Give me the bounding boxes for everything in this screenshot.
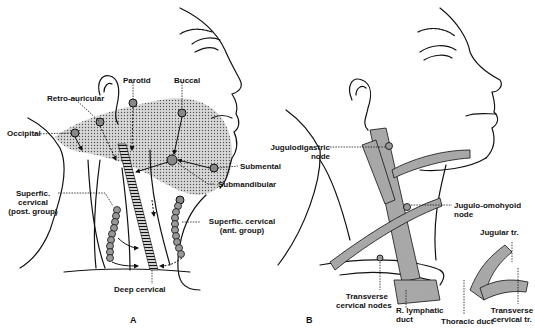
label-line: Superfic. cervical [202,217,282,226]
label-jugulo-omohyoid-node: Jugulo-omohyoid node [454,201,521,219]
label-superficial-cervical-ant: Superfic. cervical (ant. group) [202,217,282,235]
label-line: Jugulodigastric [268,143,330,152]
superficial-cervical-ant-chain [172,203,185,258]
label-line: (ant. group) [202,226,282,235]
label-transverse-cervical-nodes: Transverse cervical nodes [336,292,388,310]
label-transverse-cervical-trunk: Transverse cervical tr. [488,306,535,324]
label-parotid: Parotid [123,76,151,85]
label-line: Jugulo-omohyoid [454,201,521,210]
label-line: duct [396,315,444,324]
label-r-lymphatic-duct: R. lymphatic duct [396,306,444,324]
label-retro-auricular: Retro-auricular [47,94,104,103]
label-superficial-cervical-post: Superfic. cervical (post. group) [8,189,58,216]
label-line: cervical nodes [336,301,388,310]
label-deep-cervical: Deep cervical [114,285,166,294]
label-line: node [454,210,521,219]
label-line: cervical [8,198,58,207]
label-thoracic-duct: Thoracic duct [441,317,493,326]
label-submandibular: Submandibular [218,180,276,189]
panel-letter-b: B [306,315,313,325]
label-line: node [268,152,330,161]
label-line: cervical tr. [488,315,535,324]
panel-letter-a: A [130,315,137,325]
label-submental: Submental [240,162,281,171]
label-buccal: Buccal [174,76,200,85]
label-line: R. lymphatic [396,306,444,315]
label-line: Superfic. [8,189,58,198]
label-line: (post. group) [8,207,58,216]
label-occipital: Occipital [7,129,41,138]
label-jugulodigastric-node: Jugulodigastric node [268,143,330,161]
panel-a-drawing [20,8,241,290]
label-line: Transverse [488,306,535,315]
superficial-cervical-post-chain [107,207,121,262]
label-jugular-trunk: Jugular tr. [480,228,519,237]
label-line: Transverse [336,292,388,301]
